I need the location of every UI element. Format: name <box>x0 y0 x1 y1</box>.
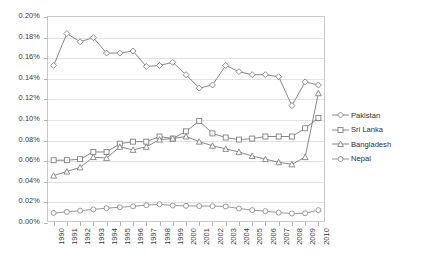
x-axis-tick-label: 1995 <box>123 228 132 245</box>
x-axis-tick-label: 1992 <box>83 228 92 245</box>
legend-item-pakistan[interactable]: Pakistan <box>331 108 419 123</box>
y-axis-tick-label: 0.12% <box>19 93 40 102</box>
plot-area <box>47 16 325 222</box>
data-point-marker <box>338 127 343 132</box>
x-axis-tick-label: 2010 <box>322 228 331 245</box>
x-tick-mark <box>199 222 200 226</box>
y-tick-mark <box>44 141 48 142</box>
x-axis-tick-label: 2003 <box>229 228 238 245</box>
data-point-marker <box>338 156 343 161</box>
y-axis-tick-label: 0.20% <box>19 11 40 20</box>
gridline <box>48 161 324 162</box>
legend-item-bangladesh[interactable]: Bangladesh <box>331 137 419 152</box>
x-axis-tick-label: 2001 <box>202 228 211 245</box>
x-axis-tick-label: 1999 <box>176 228 185 245</box>
x-tick-mark <box>80 222 81 226</box>
legend-marker-diamond-icon <box>331 109 350 121</box>
x-axis-tick-label: 1997 <box>149 228 158 245</box>
y-tick-mark <box>44 17 48 18</box>
y-axis-tick-label: 0.14% <box>19 73 40 82</box>
x-axis-tick-label: 2006 <box>269 228 278 245</box>
y-tick-mark <box>44 79 48 80</box>
y-tick-mark <box>44 161 48 162</box>
x-axis-tick-label: 1996 <box>136 228 145 245</box>
x-tick-mark <box>146 222 147 226</box>
legend-label: Pakistan <box>351 111 380 120</box>
gridline <box>48 58 324 59</box>
x-axis-tick-label: 1994 <box>110 228 119 245</box>
x-tick-mark <box>186 222 187 226</box>
y-tick-mark <box>44 223 48 224</box>
gridline <box>48 182 324 183</box>
y-axis-tick-label: 0.04% <box>19 176 40 185</box>
legend-item-nepal[interactable]: Nepal <box>331 152 419 167</box>
x-tick-mark <box>226 222 227 226</box>
y-tick-mark <box>44 120 48 121</box>
x-tick-mark <box>212 222 213 226</box>
x-axis-tick-label: 2008 <box>295 228 304 245</box>
x-tick-mark <box>252 222 253 226</box>
x-axis-tick-label: 1991 <box>70 228 79 245</box>
legend-label: Sri Lanka <box>351 125 383 134</box>
x-axis-tick-label: 1990 <box>57 228 66 245</box>
x-tick-mark <box>173 222 174 226</box>
y-axis-tick-label: 0.08% <box>19 135 40 144</box>
x-axis-tick-label: 2005 <box>255 228 264 245</box>
x-tick-mark <box>160 222 161 226</box>
y-axis-tick-label: 0.16% <box>19 52 40 61</box>
x-tick-mark <box>133 222 134 226</box>
x-axis-tick-label: 2000 <box>189 228 198 245</box>
y-axis-tick-label: 0.02% <box>19 196 40 205</box>
x-axis-tick-label: 2009 <box>308 228 317 245</box>
y-tick-mark <box>44 182 48 183</box>
x-tick-mark <box>305 222 306 226</box>
x-tick-mark <box>318 222 319 226</box>
chart-legend: PakistanSri LankaBangladeshNepal <box>331 108 419 166</box>
y-axis-tick-label: 0.18% <box>19 32 40 41</box>
x-axis-tick-label: 2002 <box>216 228 225 245</box>
x-axis-tick-label: 2004 <box>242 228 251 245</box>
y-axis-tick-label: 0.06% <box>19 155 40 164</box>
gridline <box>48 141 324 142</box>
gridline <box>48 99 324 100</box>
legend-marker-triangle-icon <box>331 138 350 150</box>
gridline <box>48 202 324 203</box>
x-tick-mark <box>279 222 280 226</box>
legend-label: Nepal <box>351 154 371 163</box>
legend-label: Bangladesh <box>351 140 391 149</box>
x-axis-tick-label: 2007 <box>282 228 291 245</box>
legend-item-sri-lanka[interactable]: Sri Lanka <box>331 123 419 138</box>
line-chart: 0.20%0.18%0.16%0.14%0.12%0.10%0.08%0.06%… <box>0 0 421 269</box>
y-tick-mark <box>44 99 48 100</box>
x-tick-mark <box>67 222 68 226</box>
x-tick-mark <box>54 222 55 226</box>
x-tick-mark <box>107 222 108 226</box>
legend-marker-circle-icon <box>331 153 350 165</box>
y-axis-tick-label: 0.10% <box>19 114 40 123</box>
x-tick-mark <box>120 222 121 226</box>
x-tick-mark <box>292 222 293 226</box>
x-tick-mark <box>93 222 94 226</box>
y-tick-mark <box>44 58 48 59</box>
x-axis-tick-label: 1998 <box>163 228 172 245</box>
y-tick-mark <box>44 202 48 203</box>
gridline <box>48 79 324 80</box>
gridline <box>48 38 324 39</box>
x-tick-mark <box>239 222 240 226</box>
gridline <box>48 120 324 121</box>
data-point-marker <box>338 112 344 118</box>
y-tick-mark <box>44 38 48 39</box>
x-tick-mark <box>265 222 266 226</box>
legend-marker-square-icon <box>331 124 350 136</box>
x-axis-tick-label: 1993 <box>97 228 106 245</box>
y-axis-tick-label: 0.00% <box>19 217 40 226</box>
